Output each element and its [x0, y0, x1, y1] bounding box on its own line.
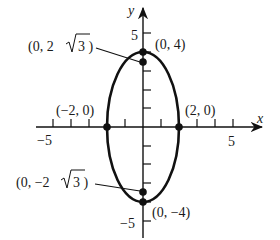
- label-left-vertex: (−2, 0): [56, 103, 95, 119]
- svg-text:(0, 2: (0, 2: [28, 39, 54, 55]
- label-lower-focus: (0, −2 3 ): [16, 170, 89, 191]
- ellipse-diagram: y x −5 5 5 −5 (0, 4) (0, −4) (−2, 0) (2,…: [0, 0, 280, 240]
- y-tick-label-neg5: −5: [120, 216, 135, 231]
- label-bottom-vertex: (0, −4): [152, 205, 191, 221]
- point-top-vertex: [139, 48, 147, 56]
- svg-text:(0, −2: (0, −2: [16, 175, 50, 191]
- x-tick-label-5: 5: [228, 134, 235, 149]
- point-left-vertex: [103, 123, 111, 131]
- point-upper-focus: [139, 58, 147, 66]
- point-bottom-vertex: [139, 198, 147, 206]
- ellipse-graph-canvas: y x −5 5 5 −5 (0, 4) (0, −4) (−2, 0) (2,…: [0, 0, 280, 240]
- point-right-vertex: [175, 123, 183, 131]
- x-axis-label: x: [256, 111, 264, 126]
- point-lower-focus: [139, 188, 147, 196]
- label-right-vertex: (2, 0): [185, 103, 216, 119]
- svg-text:3 ): 3 ): [78, 39, 94, 55]
- x-tick-label-neg5: −5: [37, 133, 52, 148]
- lower-focus-leader: [95, 184, 140, 191]
- svg-text:3 ): 3 ): [73, 175, 89, 191]
- y-tick-label-5: 5: [131, 28, 138, 43]
- y-axis-label: y: [126, 3, 135, 18]
- label-top-vertex: (0, 4): [155, 37, 186, 53]
- label-upper-focus: (0, 2 3 ): [28, 34, 94, 55]
